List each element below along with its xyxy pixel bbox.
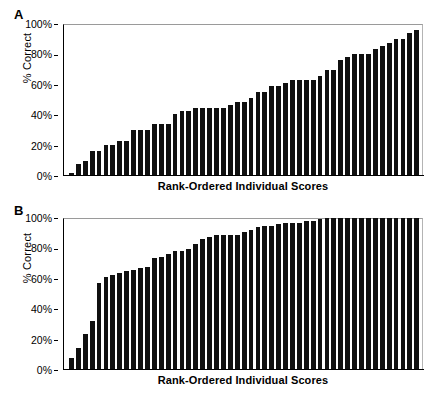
- bar: [90, 321, 95, 370]
- bar: [262, 226, 267, 370]
- bar: [331, 218, 336, 370]
- panel-a-x-axis-title: Rank-Ordered Individual Scores: [63, 180, 423, 192]
- bar: [228, 105, 233, 176]
- bar: [276, 224, 281, 370]
- panel-b: B % Correct 0%20%40%60%80%100% Rank-Orde…: [0, 198, 442, 398]
- y-tick-mark: [54, 85, 58, 86]
- bar: [366, 54, 371, 176]
- bar: [173, 114, 178, 176]
- bar: [352, 218, 357, 370]
- y-tick-mark: [54, 176, 58, 177]
- bar: [235, 235, 240, 370]
- bar: [152, 124, 157, 176]
- bar: [166, 124, 171, 176]
- y-tick-mark: [54, 115, 58, 116]
- bar: [414, 218, 419, 370]
- bar: [318, 219, 323, 370]
- bar: [117, 141, 122, 176]
- bar: [269, 86, 274, 176]
- bar: [407, 218, 412, 370]
- bar: [249, 230, 254, 370]
- panel-b-x-axis-line: [63, 369, 424, 370]
- bar: [318, 76, 323, 176]
- bar: [76, 348, 81, 370]
- bar: [159, 257, 164, 370]
- bar: [207, 237, 212, 370]
- bar: [131, 130, 136, 176]
- y-tick-mark: [54, 55, 58, 56]
- y-tick-label: 0%: [37, 170, 58, 182]
- bar: [117, 273, 122, 370]
- y-tick-label: 100%: [25, 18, 58, 30]
- y-tick-mark: [54, 24, 58, 25]
- bar: [124, 141, 129, 176]
- bar: [401, 218, 406, 370]
- y-tick-label: 80%: [31, 48, 58, 60]
- bar: [138, 268, 143, 370]
- bar: [214, 108, 219, 176]
- bar: [401, 39, 406, 176]
- bar: [180, 111, 185, 176]
- bar: [97, 151, 102, 176]
- bar: [276, 86, 281, 176]
- bar: [83, 334, 88, 370]
- panel-a-x-axis-line: [63, 175, 424, 176]
- bar: [338, 218, 343, 370]
- y-tick-mark: [54, 218, 58, 219]
- bar: [325, 218, 330, 370]
- y-tick-label: 40%: [31, 303, 58, 315]
- bar: [345, 57, 350, 176]
- panel-b-x-axis-title: Rank-Ordered Individual Scores: [63, 374, 423, 386]
- bar: [256, 227, 261, 370]
- bar: [214, 235, 219, 370]
- bar: [373, 49, 378, 176]
- bar: [414, 30, 419, 176]
- bar: [145, 130, 150, 176]
- panel-a: A % Correct 0%20%40%60%80%100% Rank-Orde…: [0, 0, 442, 198]
- bar: [352, 54, 357, 176]
- bar: [256, 92, 261, 176]
- bar: [304, 221, 309, 370]
- bar: [180, 251, 185, 370]
- y-tick-mark: [54, 146, 58, 147]
- bar: [228, 235, 233, 370]
- y-tick-mark: [54, 249, 58, 250]
- bar: [366, 218, 371, 370]
- y-tick-mark: [54, 370, 58, 371]
- panel-a-plot-area: [63, 24, 423, 176]
- bar: [104, 277, 109, 370]
- bar: [297, 223, 302, 370]
- bar: [166, 254, 171, 370]
- y-tick-label: 40%: [31, 109, 58, 121]
- bar: [97, 283, 102, 370]
- bar: [242, 232, 247, 370]
- bar: [283, 223, 288, 370]
- bar: [193, 244, 198, 370]
- bar: [159, 124, 164, 176]
- bar: [138, 130, 143, 176]
- bar: [290, 80, 295, 176]
- y-tick-label: 20%: [31, 140, 58, 152]
- bar: [407, 33, 412, 176]
- bar: [304, 80, 309, 176]
- bar: [221, 235, 226, 370]
- panel-b-bars: [64, 219, 422, 370]
- y-tick-label: 100%: [25, 212, 58, 224]
- bar: [311, 80, 316, 176]
- bar: [152, 258, 157, 370]
- bar: [207, 108, 212, 176]
- bar: [221, 108, 226, 176]
- y-tick-label: 20%: [31, 334, 58, 346]
- bar: [145, 267, 150, 370]
- bar: [200, 108, 205, 176]
- bar: [387, 218, 392, 370]
- bar: [124, 271, 129, 370]
- bar: [269, 226, 274, 370]
- bar: [331, 70, 336, 176]
- panel-b-y-axis-ticks: 0%20%40%60%80%100%: [18, 198, 58, 398]
- bar: [380, 46, 385, 176]
- bar: [380, 218, 385, 370]
- bar: [387, 43, 392, 176]
- bar: [186, 249, 191, 370]
- bar: [311, 221, 316, 370]
